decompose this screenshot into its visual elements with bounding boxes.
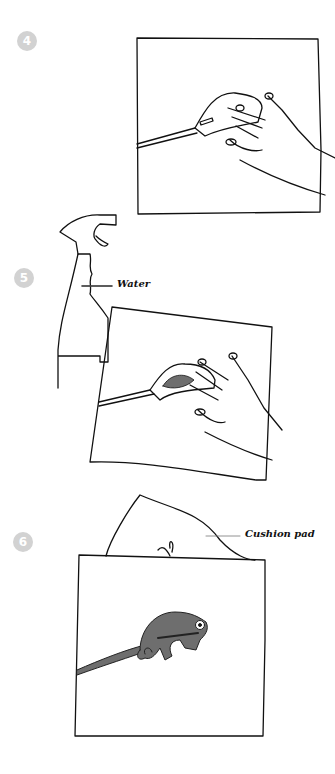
chameleon-wet-5 <box>163 375 194 388</box>
step-5-drawing <box>90 307 282 480</box>
hand-4 <box>228 96 335 195</box>
water-label: Water <box>117 278 150 289</box>
tool-head-4 <box>195 93 262 136</box>
cushion-pad <box>106 495 255 560</box>
paper-sheet-4 <box>137 38 321 214</box>
step-badge-6: 6 <box>13 532 33 552</box>
illustration-canvas <box>0 0 335 774</box>
chameleon-mount <box>77 612 207 675</box>
tool-handle-5 <box>99 390 154 406</box>
chameleon-tail-branch <box>77 645 150 675</box>
cushion-pad-label: Cushion pad <box>245 528 315 539</box>
step-badge-5: 5 <box>14 268 34 288</box>
paper-sheet-5 <box>90 307 272 480</box>
step-4-drawing <box>137 38 335 214</box>
tool-handle-4 <box>137 128 197 148</box>
spray-bottle <box>58 215 116 388</box>
step-badge-4: 4 <box>17 31 37 51</box>
